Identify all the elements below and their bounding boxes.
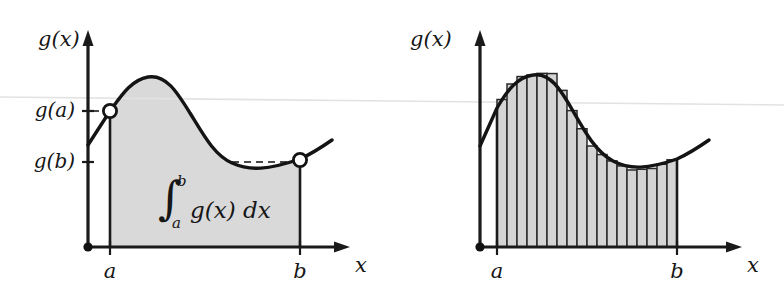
origin-dot xyxy=(83,242,92,251)
riemann-bar xyxy=(587,146,597,247)
y-axis-arrowhead xyxy=(475,30,486,46)
scan-artifact-line xyxy=(392,101,784,105)
riemann-bar xyxy=(527,75,537,247)
riemann-bar xyxy=(507,84,517,247)
x-axis-arrowhead xyxy=(726,242,742,253)
riemann-bar xyxy=(667,160,677,247)
riemann-bar-group xyxy=(497,73,677,247)
origin-dot xyxy=(475,242,484,251)
riemann-bar xyxy=(577,129,587,247)
riemann-bar xyxy=(547,74,557,247)
value-label-gb: g(b) xyxy=(34,149,75,173)
riemann-bar xyxy=(657,164,667,247)
bound-label-a: a xyxy=(491,259,504,283)
integral-lower-limit: a xyxy=(172,214,181,232)
riemann-bar xyxy=(597,155,607,247)
x-axis-arrowhead xyxy=(334,242,350,253)
y-axis-label: g(x) xyxy=(410,27,452,51)
integral-upper-limit: b xyxy=(177,172,187,190)
bound-label-b: b xyxy=(293,259,306,283)
value-label-ga: g(a) xyxy=(35,98,75,122)
bound-label-b: b xyxy=(670,259,683,283)
riemann-bar xyxy=(497,100,507,248)
riemann-bar xyxy=(567,111,577,247)
riemann-bar xyxy=(607,161,617,247)
y-axis-label: g(x) xyxy=(38,27,80,51)
y-axis-arrowhead xyxy=(83,30,94,46)
x-axis-label: x xyxy=(355,253,367,277)
riemann-bar xyxy=(627,170,637,247)
marker-point-b xyxy=(293,153,306,166)
riemann-sum-panel: g(x) x a b xyxy=(392,0,784,289)
integrand-expression: g(x) dx xyxy=(190,197,271,223)
figure-root: ∫ b a g(x) dx g(x) x g(a) g(b) a b xyxy=(0,0,784,289)
bound-label-a: a xyxy=(104,259,117,283)
integral-panel: ∫ b a g(x) dx g(x) x g(a) g(b) a b xyxy=(0,0,392,289)
riemann-bar xyxy=(557,90,567,247)
riemann-bar xyxy=(537,73,547,247)
riemann-bar xyxy=(647,168,657,247)
x-axis-label: x xyxy=(747,253,759,277)
riemann-bar xyxy=(617,166,627,247)
marker-point-a xyxy=(103,104,116,117)
riemann-bar xyxy=(517,77,527,247)
riemann-bar xyxy=(637,169,647,247)
